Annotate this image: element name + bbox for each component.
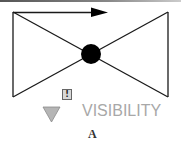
right-arrow-icon xyxy=(13,8,108,18)
figure-caption: A xyxy=(88,128,97,140)
down-triangle-icon xyxy=(43,107,60,122)
visibility-label: VISIBILITY xyxy=(82,103,161,119)
center-node xyxy=(81,44,101,64)
exclamation-box-icon: ! xyxy=(62,89,72,100)
